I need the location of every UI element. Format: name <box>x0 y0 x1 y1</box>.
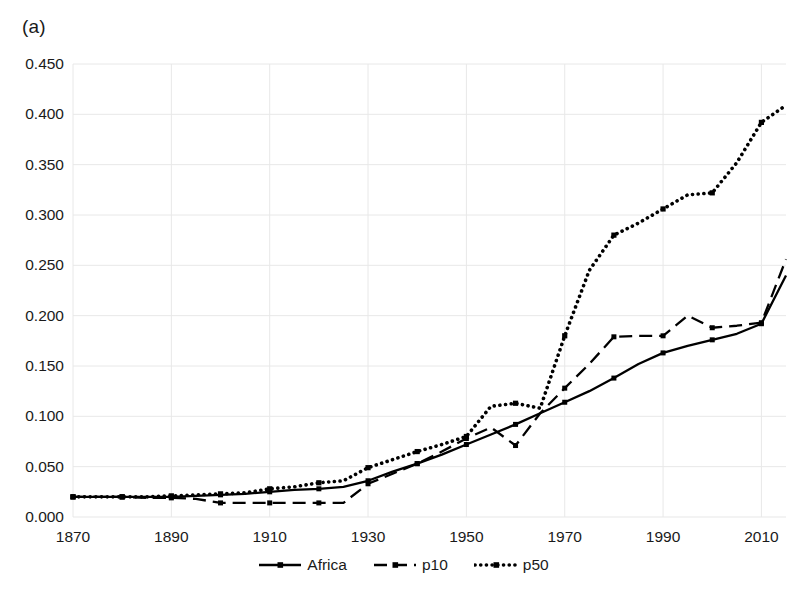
data-point-marker <box>513 401 518 406</box>
series-africa <box>71 275 787 499</box>
legend-swatch-p50 <box>474 558 518 572</box>
legend-label: Africa <box>307 556 347 574</box>
legend-marker <box>278 562 284 568</box>
data-point-marker <box>513 443 518 448</box>
data-point-marker <box>661 350 666 355</box>
data-point-marker <box>218 500 223 505</box>
x-tick-label: 1910 <box>252 528 286 546</box>
data-point-marker <box>464 434 469 439</box>
x-tick-label: 1990 <box>646 528 680 546</box>
data-point-marker <box>316 486 321 491</box>
legend-entry-africa[interactable]: Africa <box>258 556 347 574</box>
data-point-marker <box>70 494 75 499</box>
legend-label: p50 <box>523 556 549 574</box>
x-tick-label: 1970 <box>547 528 581 546</box>
data-point-marker <box>513 422 518 427</box>
data-point-marker <box>611 376 616 381</box>
data-point-marker <box>169 493 174 498</box>
data-point-marker <box>267 486 272 491</box>
data-point-marker <box>366 481 371 486</box>
chart-legend: Africap10p50 <box>0 556 807 574</box>
data-point-marker <box>464 442 469 447</box>
data-point-marker <box>267 500 272 505</box>
data-point-marker <box>316 500 321 505</box>
data-point-marker <box>710 190 715 195</box>
series-line <box>73 275 786 496</box>
legend-entry-p50[interactable]: p50 <box>474 556 549 574</box>
data-point-marker <box>365 465 370 470</box>
legend-swatch-p10 <box>373 558 417 572</box>
chart-figure: (a) 0.4500.4000.3500.3000.2500.2000.1500… <box>0 0 807 595</box>
data-point-marker <box>562 386 567 391</box>
data-point-marker <box>661 333 666 338</box>
data-point-marker <box>415 461 420 466</box>
data-point-marker <box>218 491 223 496</box>
data-point-marker <box>316 480 321 485</box>
x-tick-label: 1890 <box>154 528 188 546</box>
data-point-marker <box>611 233 616 238</box>
data-point-marker <box>759 320 764 325</box>
legend-swatch-africa <box>258 558 302 572</box>
x-tick-label: 1870 <box>56 528 90 546</box>
series-line <box>73 105 786 497</box>
data-point-marker <box>415 449 420 454</box>
legend-marker <box>392 562 398 568</box>
legend-marker <box>493 562 499 568</box>
data-point-marker <box>710 325 715 330</box>
data-point-marker <box>660 206 665 211</box>
data-point-marker <box>562 400 567 405</box>
series-p10 <box>71 259 787 505</box>
data-point-marker <box>120 494 125 499</box>
plot-area <box>0 0 807 595</box>
data-point-marker <box>611 334 616 339</box>
x-tick-label: 1950 <box>449 528 483 546</box>
data-point-marker <box>710 337 715 342</box>
data-point-marker <box>562 333 567 338</box>
x-tick-label: 2010 <box>744 528 778 546</box>
legend-entry-p10[interactable]: p10 <box>373 556 448 574</box>
x-tick-label: 1930 <box>351 528 385 546</box>
data-point-marker <box>759 120 764 125</box>
legend-label: p10 <box>422 556 448 574</box>
series-layer <box>70 105 786 505</box>
